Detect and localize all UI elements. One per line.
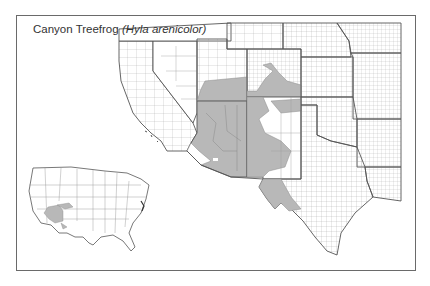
scientific-name: (Hyla arenicolor) bbox=[122, 23, 206, 35]
missouri bbox=[351, 53, 401, 119]
kansas bbox=[301, 57, 353, 97]
map-title: Canyon Treefrog (Hyla arenicolor) bbox=[33, 23, 206, 35]
main-map bbox=[119, 23, 401, 255]
arkansas bbox=[357, 119, 401, 167]
inset-map bbox=[29, 167, 149, 251]
range-map bbox=[17, 16, 416, 271]
wyoming bbox=[227, 23, 283, 49]
map-frame: Canyon Treefrog (Hyla arenicolor) bbox=[16, 15, 416, 271]
common-name: Canyon Treefrog bbox=[33, 23, 119, 35]
